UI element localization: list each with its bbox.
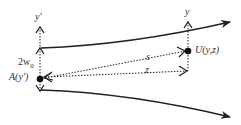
point-u-label: U(y,z) [195,45,219,55]
s-distance-line [45,51,186,78]
y-axis-label: y [185,7,189,17]
beam-width-label: 2w0 [18,57,34,70]
point-a-dot [37,76,44,83]
z-distance-label: z [145,65,149,75]
gaussian-beam-diagram: y' y 2w0 A(y') U(y,z) s z [0,0,241,125]
beam-width-subscript: 0 [30,62,34,70]
s-distance-label: s [146,52,150,62]
point-a-label: A(y') [9,72,28,82]
beam-width-text: 2w [18,56,30,67]
point-u-dot [185,48,192,55]
lower-beam-edge [41,90,230,117]
y-prime-axis-label: y' [35,12,42,22]
